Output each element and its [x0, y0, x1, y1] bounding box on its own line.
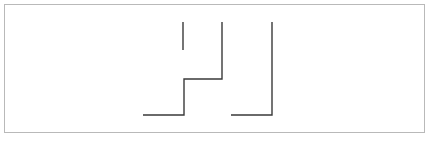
right-l-polyline: [231, 22, 272, 115]
screenshot-canvas: [0, 0, 432, 142]
line-drawing: [0, 0, 432, 142]
